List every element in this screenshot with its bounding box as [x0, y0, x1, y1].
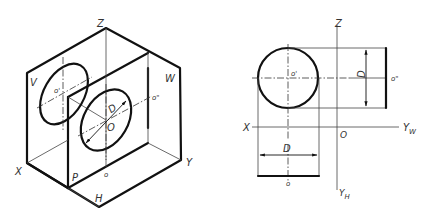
p-to-y-edge — [68, 143, 148, 188]
label-x: X — [14, 166, 23, 177]
w-bottom-edge — [148, 143, 181, 160]
label-z-axis: Z — [334, 18, 343, 29]
label-yw-axis: YW — [403, 122, 417, 136]
label-center-o: O — [107, 122, 115, 133]
projection-diagram: Z V W X Y H P o' o" o O D — [0, 0, 428, 215]
center-line-a — [78, 96, 152, 136]
isometric-view: Z V W X Y H P o' o" o O D — [14, 18, 193, 207]
label-diameter: D — [106, 102, 119, 116]
label-o-double-prime-side: o" — [391, 75, 399, 83]
label-z: Z — [96, 18, 105, 29]
label-yh-axis: YH — [339, 188, 351, 201]
label-diameter-h: D — [283, 143, 291, 154]
v-center-line-a — [37, 77, 92, 108]
label-o-top: o — [286, 180, 290, 188]
x-inner-edge — [27, 140, 68, 163]
label-o-prime-front: o' — [291, 70, 297, 78]
orthographic-view: Z X YW YH O o' o" o D D — [242, 18, 417, 201]
label-o-double-prime: o" — [152, 94, 160, 102]
label-diameter-v: D — [356, 70, 367, 78]
v-plane-ellipse — [30, 55, 98, 132]
label-v: V — [30, 77, 38, 88]
box-outline — [27, 28, 181, 207]
label-origin: O — [340, 130, 347, 140]
label-w: W — [165, 73, 176, 84]
label-x-axis: X — [242, 122, 251, 133]
label-h: H — [95, 193, 103, 204]
x-to-p-edge — [27, 163, 68, 188]
label-p: P — [72, 172, 79, 183]
label-o-prime: o' — [54, 87, 60, 95]
label-o: o — [104, 171, 108, 179]
label-y: Y — [186, 157, 193, 168]
